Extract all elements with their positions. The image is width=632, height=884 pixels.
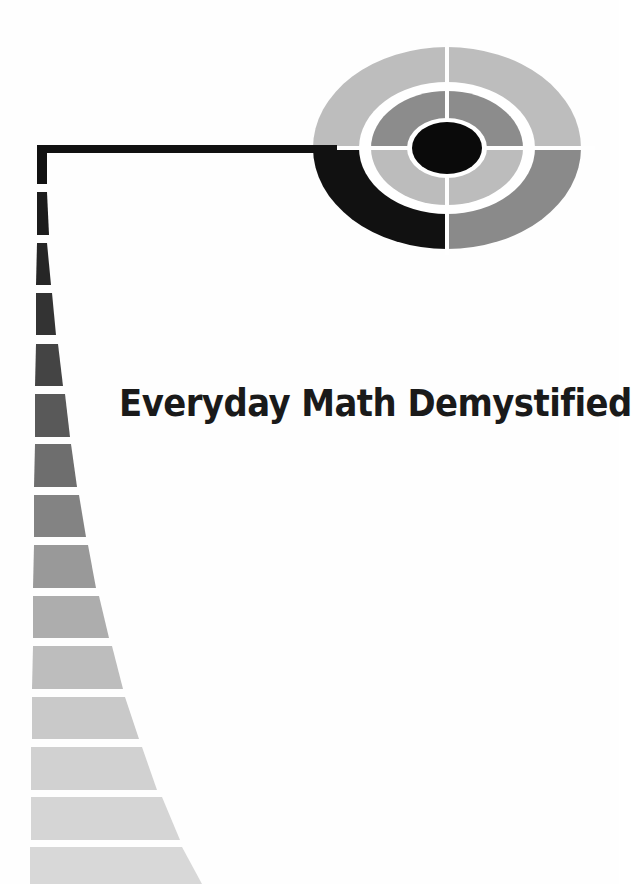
staircase-bar-9	[33, 596, 109, 638]
staircase-bar-8	[33, 545, 96, 588]
target-graphic-icon	[305, 40, 595, 255]
connector-line	[37, 145, 337, 184]
staircase-bar-12	[31, 747, 157, 790]
staircase-bar-14	[30, 847, 202, 884]
staircase-bars	[30, 192, 202, 884]
staircase-bar-1	[37, 192, 49, 235]
bullseye	[412, 122, 482, 174]
staircase-bar-7	[34, 495, 86, 537]
staircase-bar-4	[35, 344, 63, 386]
staircase-bar-2	[36, 243, 51, 285]
book-title: Everyday Math Demystified	[119, 380, 632, 428]
staircase-bar-3	[36, 293, 56, 335]
staircase-bar-13	[31, 797, 180, 840]
staircase-bar-5	[35, 394, 70, 437]
staircase-bar-6	[34, 444, 77, 487]
staircase-bar-11	[32, 697, 139, 739]
staircase-bar-10	[32, 646, 123, 689]
